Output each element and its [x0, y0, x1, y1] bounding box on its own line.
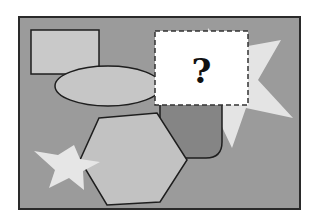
shape-diagram: ?	[0, 0, 316, 224]
ellipse	[55, 66, 161, 106]
question-mark: ?	[192, 51, 212, 91]
